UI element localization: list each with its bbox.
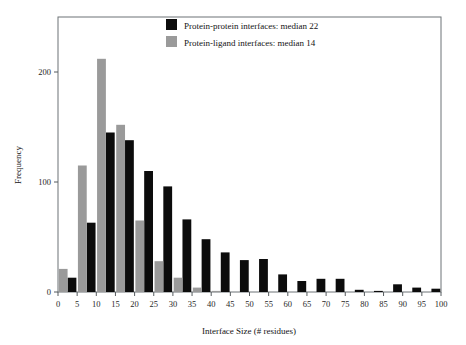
x-axis-title: Interface Size (# residues) xyxy=(202,326,296,336)
bar xyxy=(97,59,106,292)
legend-item: Protein-ligand interfaces: median 14 xyxy=(166,36,316,48)
x-tick-label: 5 xyxy=(75,299,79,309)
x-tick-label: 10 xyxy=(92,299,101,309)
bar xyxy=(68,278,77,292)
bar xyxy=(221,252,230,292)
bar xyxy=(393,284,402,292)
bar xyxy=(155,261,164,292)
bar xyxy=(202,239,211,292)
bar xyxy=(174,278,183,292)
x-tick-label: 95 xyxy=(418,299,427,309)
bar xyxy=(212,291,221,292)
bar xyxy=(106,133,115,293)
x-tick-label: 15 xyxy=(111,299,120,309)
bar xyxy=(193,288,202,292)
y-axis-title: Frequency xyxy=(13,146,23,184)
bar xyxy=(125,140,134,292)
bar xyxy=(355,290,364,292)
bar xyxy=(240,260,249,292)
x-tick-label: 45 xyxy=(226,299,235,309)
bar xyxy=(135,221,144,293)
x-tick-label: 65 xyxy=(303,299,312,309)
legend-swatch-protein-ligand xyxy=(166,36,177,47)
bar xyxy=(116,125,125,292)
bar xyxy=(78,166,87,293)
x-tick-label: 75 xyxy=(341,299,350,309)
bar xyxy=(259,259,268,292)
x-tick-label: 20 xyxy=(130,299,139,309)
chart-canvas: 0510152025303540455055606570758085909510… xyxy=(0,0,466,345)
x-tick-label: 40 xyxy=(207,299,216,309)
x-tick-label: 0 xyxy=(56,299,60,309)
x-tick-label: 70 xyxy=(322,299,331,309)
y-tick-label: 100 xyxy=(38,177,51,187)
bar xyxy=(431,289,440,292)
bar xyxy=(336,279,345,292)
x-tick-label: 80 xyxy=(360,299,369,309)
histogram-chart: 0510152025303540455055606570758085909510… xyxy=(0,0,466,345)
x-tick-label: 90 xyxy=(398,299,407,309)
bar xyxy=(317,279,326,292)
bar xyxy=(144,171,153,292)
x-tick-label: 25 xyxy=(150,299,159,309)
legend-item: Protein-protein interfaces: median 22 xyxy=(166,19,318,31)
legend-item-label: Protein-ligand interfaces: median 14 xyxy=(184,38,316,48)
legend-swatch-protein-protein xyxy=(166,19,177,30)
x-tick-label: 60 xyxy=(284,299,293,309)
legend-item-label: Protein-protein interfaces: median 22 xyxy=(184,21,318,31)
bar xyxy=(278,274,287,292)
y-tick-label: 200 xyxy=(38,67,51,77)
x-tick-label: 35 xyxy=(188,299,197,309)
bar xyxy=(412,288,421,292)
x-tick-label: 85 xyxy=(379,299,388,309)
x-tick-label: 55 xyxy=(264,299,273,309)
bar xyxy=(163,186,172,292)
bar xyxy=(182,219,191,292)
chart-background xyxy=(0,0,466,345)
bar xyxy=(87,223,96,292)
bar xyxy=(374,291,383,292)
x-tick-label: 50 xyxy=(245,299,254,309)
bar xyxy=(297,281,306,292)
x-tick-label: 30 xyxy=(169,299,178,309)
y-tick-label: 0 xyxy=(47,287,51,297)
x-tick-label: 100 xyxy=(435,299,448,309)
bar xyxy=(59,269,68,292)
